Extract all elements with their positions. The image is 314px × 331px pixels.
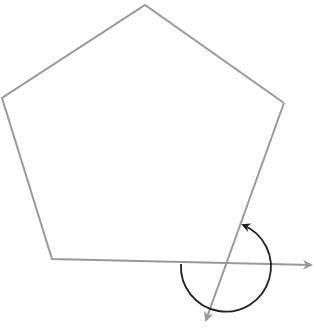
pentagon-outline xyxy=(2,5,284,263)
next-edge-arrow xyxy=(206,103,284,320)
angle-arc-icon xyxy=(181,225,271,312)
extended-edge-arrow xyxy=(226,263,311,265)
pentagon-exterior-angle-diagram xyxy=(0,0,314,331)
